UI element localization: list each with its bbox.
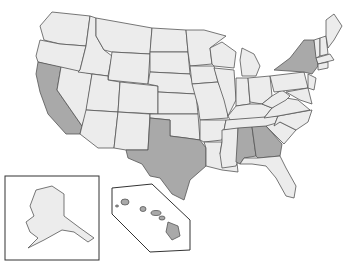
state-colorado[interactable] bbox=[118, 82, 158, 114]
state-new-york[interactable] bbox=[274, 40, 318, 74]
state-new-mexico[interactable] bbox=[114, 112, 150, 150]
state-wisconsin[interactable] bbox=[210, 42, 236, 68]
state-new-jersey[interactable] bbox=[308, 74, 316, 90]
state-north-dakota[interactable] bbox=[150, 28, 188, 52]
state-hawaii[interactable] bbox=[116, 199, 181, 240]
state-indiana[interactable] bbox=[236, 78, 250, 106]
state-mississippi[interactable] bbox=[220, 128, 238, 168]
state-michigan[interactable] bbox=[240, 48, 260, 76]
state-alaska[interactable] bbox=[26, 186, 94, 248]
state-south-dakota[interactable] bbox=[150, 52, 190, 74]
state-wyoming[interactable] bbox=[108, 52, 150, 84]
state-florida[interactable] bbox=[240, 156, 296, 198]
state-arizona[interactable] bbox=[80, 110, 118, 148]
state-kansas[interactable] bbox=[158, 92, 198, 114]
state-montana[interactable] bbox=[96, 18, 152, 54]
state-washington[interactable] bbox=[40, 12, 90, 46]
us-map bbox=[0, 0, 343, 264]
alaska-inset bbox=[5, 176, 99, 260]
state-maine[interactable] bbox=[326, 14, 342, 48]
